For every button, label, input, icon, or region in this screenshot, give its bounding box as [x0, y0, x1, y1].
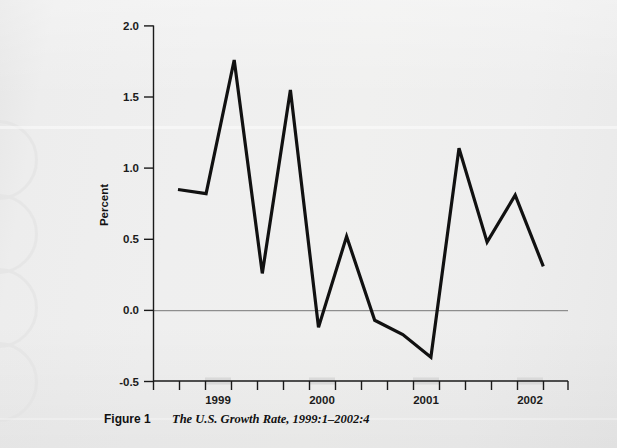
x-axis-tick-labels: 1999 2000 2001 2002 — [205, 394, 543, 406]
growth-rate-series-line — [178, 60, 543, 357]
growth-rate-chart: 2.0 1.5 1.0 0.5 0.0 -0.5 Percent — [0, 0, 617, 448]
x-tick-label: 1999 — [205, 394, 231, 406]
x-tick-label: 2000 — [309, 394, 335, 406]
figure-caption-text: The U.S. Growth Rate, 1999:1–2002:4 — [172, 412, 370, 426]
y-tick-label: 1.0 — [123, 162, 139, 174]
y-axis-ticks — [144, 26, 154, 382]
y-tick-label: 2.0 — [123, 20, 139, 32]
figure-container: 2.0 1.5 1.0 0.5 0.0 -0.5 Percent — [0, 0, 617, 448]
figure-caption-label: Figure 1 — [104, 412, 151, 426]
x-tick-label: 2002 — [517, 394, 543, 406]
y-tick-label: -0.5 — [119, 376, 139, 388]
y-axis-title: Percent — [98, 184, 110, 226]
y-tick-label: 0.0 — [123, 304, 139, 316]
y-tick-label: 0.5 — [123, 233, 140, 245]
x-tick-label: 2001 — [413, 394, 439, 406]
y-axis-tick-labels: 2.0 1.5 1.0 0.5 0.0 -0.5 — [119, 20, 139, 388]
y-tick-label: 1.5 — [123, 91, 140, 103]
